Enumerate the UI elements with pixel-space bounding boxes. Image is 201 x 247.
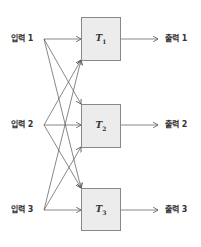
input-2-label: 입력 2	[11, 120, 33, 130]
input-1-label: 입력 1	[11, 34, 33, 44]
output-1-label: 출력 1	[165, 34, 187, 44]
transform-box-3: T3	[81, 188, 121, 231]
transform-1-label: T1	[82, 33, 120, 45]
transform-box-2: T2	[81, 104, 121, 148]
output-3-label: 출력 3	[165, 205, 187, 215]
transform-3-label: T3	[82, 204, 120, 216]
output-2-label: 출력 2	[165, 120, 187, 130]
transform-2-label: T2	[82, 120, 120, 132]
input-3-label: 입력 3	[11, 205, 33, 215]
transform-box-1: T1	[81, 17, 121, 61]
